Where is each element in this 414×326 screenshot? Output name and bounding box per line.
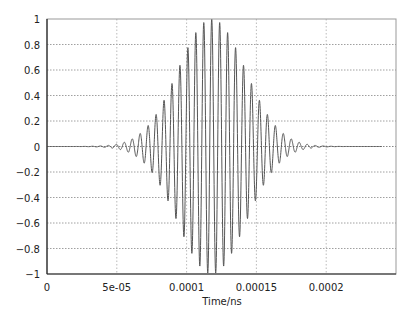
y-tick-label: 0.6 — [24, 65, 40, 76]
x-tick-label: 0 — [44, 282, 50, 293]
y-tick-label: −0.8 — [16, 244, 40, 255]
y-tick-labels: 10.80.60.40.20−0.2−0.4−0.6−0.8−1 — [16, 14, 40, 280]
x-tick-labels: 05e-050.00010.000150.0002 — [44, 282, 344, 293]
y-tick-label: 0 — [34, 142, 40, 153]
x-tick-label: 0.00015 — [236, 282, 277, 293]
y-tick-label: 0.8 — [24, 40, 40, 51]
signal-series — [47, 19, 382, 273]
y-tick-label: 0.2 — [24, 116, 40, 127]
y-tick-label: −0.4 — [16, 193, 40, 204]
chart: 10.80.60.40.20−0.2−0.4−0.6−0.8−1 05e-050… — [0, 0, 414, 326]
x-axis-label: Time/ns — [201, 296, 241, 307]
y-tick-label: 0.4 — [24, 91, 40, 102]
y-tick-label: −0.2 — [16, 167, 40, 178]
y-tick-label: −1 — [25, 269, 40, 280]
y-tick-label: −0.6 — [16, 218, 40, 229]
x-tick-label: 0.0001 — [169, 282, 204, 293]
y-tick-label: 1 — [34, 14, 40, 25]
x-tick-label: 5e-05 — [102, 282, 131, 293]
x-tick-label: 0.0002 — [309, 282, 344, 293]
